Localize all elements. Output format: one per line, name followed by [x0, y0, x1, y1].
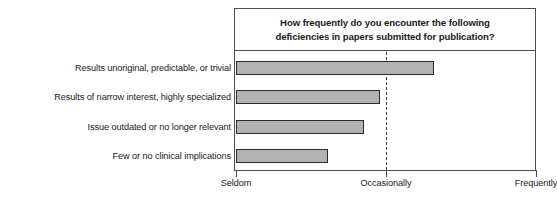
category-label-0: Results unoriginal, predictable, or triv…	[1, 63, 231, 74]
chart-title: How frequently do you encounter the foll…	[270, 16, 501, 43]
category-label-3: Few or no clinical implications	[1, 151, 231, 162]
x-tick-2	[536, 170, 537, 177]
category-label-2: Issue outdated or no longer relevant	[1, 122, 231, 133]
chart-title-line-1: How frequently do you encounter the foll…	[280, 17, 490, 28]
bar-few-clinical-implications	[236, 149, 328, 163]
bar-results-narrow-interest	[236, 90, 380, 104]
chart-title-line-2: deficiencies in papers submitted for pub…	[276, 31, 495, 42]
bar-results-unoriginal	[236, 61, 434, 75]
category-label-1: Results of narrow interest, highly speci…	[1, 92, 231, 103]
x-tick-0	[236, 170, 237, 177]
chart-title-box: How frequently do you encounter the foll…	[234, 8, 536, 51]
x-tick-1	[386, 170, 387, 177]
x-tick-label-seldom: Seldom	[221, 178, 252, 189]
bar-chart: How frequently do you encounter the foll…	[0, 0, 557, 199]
plot-area	[236, 52, 536, 170]
bar-issue-outdated	[236, 120, 364, 134]
x-tick-label-frequently: Frequently	[515, 178, 557, 189]
x-tick-label-occasionally: Occasionally	[361, 178, 412, 189]
